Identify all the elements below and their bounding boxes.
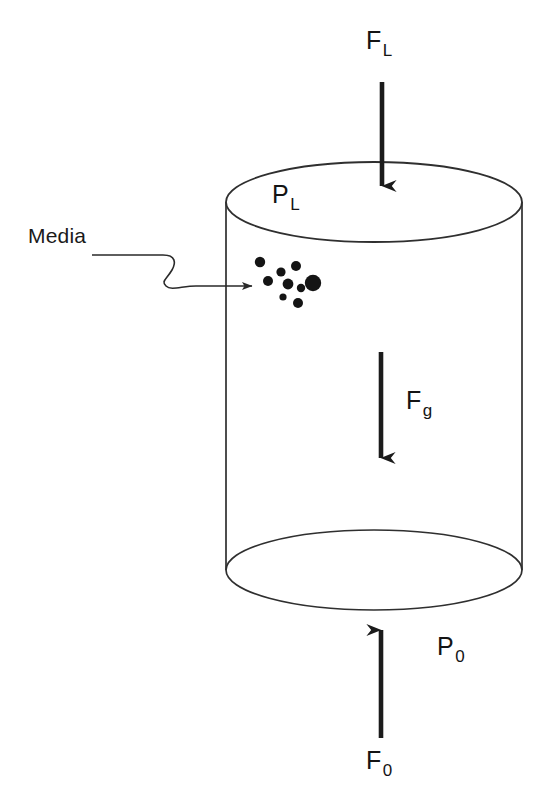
media-particle <box>291 261 301 271</box>
pressure-top-label-sub: L <box>290 195 299 214</box>
pressure-bottom-label: P0 <box>437 634 464 659</box>
media-label: Media <box>28 224 86 248</box>
cylinder-top-ellipse <box>226 162 522 242</box>
pressure-bottom-label-sub: 0 <box>455 647 464 666</box>
pressure-top-label: PL <box>272 182 299 207</box>
cylinder-bottom-ellipse <box>226 530 522 610</box>
pressure-top-label-base: P <box>272 180 289 208</box>
cylinder-force-diagram <box>0 0 554 800</box>
media-particle <box>255 257 265 267</box>
force-gravity-label-base: F <box>406 386 422 414</box>
force-top-label-base: F <box>366 26 382 54</box>
force-bottom-label: F0 <box>366 748 391 773</box>
force-top-label: FL <box>366 28 391 53</box>
figure-canvas: FL PL Fg P0 F0 Media <box>0 0 554 800</box>
media-particle <box>263 276 273 286</box>
media-particle <box>293 298 303 308</box>
force-bottom-label-base: F <box>366 746 382 774</box>
force-top-label-sub: L <box>383 41 392 60</box>
force-gravity-label-sub: g <box>423 401 432 420</box>
media-particle <box>305 275 321 291</box>
force-bottom-label-sub: 0 <box>383 761 392 780</box>
cylinder-body <box>226 162 522 610</box>
media-particle <box>279 293 286 300</box>
force-gravity-label: Fg <box>406 388 431 413</box>
media-particle <box>283 279 294 290</box>
pressure-bottom-label-base: P <box>437 632 454 660</box>
media-particle <box>297 284 305 292</box>
media-particle <box>276 267 285 276</box>
